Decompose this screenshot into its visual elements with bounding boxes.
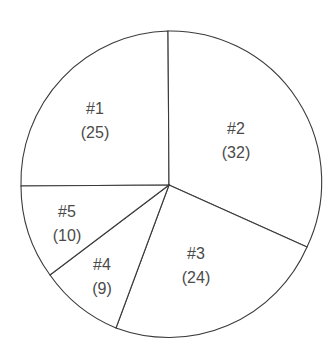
slice-2-label: #2	[227, 120, 245, 137]
slice-3-value: (24)	[182, 269, 210, 286]
pie-chart: #1 (25) #2 (32) #3 (24) #4 (9) #5 (10)	[0, 0, 334, 358]
slice-3-label: #3	[187, 245, 205, 262]
slice-4-label: #4	[93, 256, 111, 273]
slice-1-label: #1	[86, 100, 104, 117]
slice-1-value: (25)	[81, 124, 109, 141]
slice-5-value: (10)	[53, 227, 81, 244]
slice-2-value: (32)	[222, 144, 250, 161]
slice-5-label: #5	[58, 203, 76, 220]
slice-4-value: (9)	[92, 280, 112, 297]
slice-1: #1 (25)	[21, 31, 169, 186]
